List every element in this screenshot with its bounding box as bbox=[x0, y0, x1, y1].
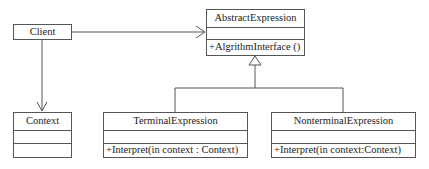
hollow-triangle-icon bbox=[249, 56, 261, 65]
class-terminal-expression[interactable]: TerminalExpression +Interpret(in context… bbox=[103, 112, 248, 158]
attributes-compartment bbox=[272, 130, 415, 143]
attributes-compartment bbox=[14, 130, 71, 143]
class-name: NonterminalExpression bbox=[272, 113, 415, 130]
class-client[interactable]: Client bbox=[13, 24, 72, 40]
attributes-compartment bbox=[104, 130, 247, 143]
class-name: TerminalExpression bbox=[104, 113, 247, 130]
class-abstract-expression[interactable]: AbstractExpression +AlgrithmInterface () bbox=[206, 9, 305, 56]
generalization-connector bbox=[175, 56, 343, 112]
operations-compartment bbox=[14, 143, 71, 157]
operations-compartment: +Interpret(in context : Context) bbox=[104, 143, 247, 157]
client-to-abstractexpression-association bbox=[71, 26, 205, 38]
class-nonterminal-expression[interactable]: NonterminalExpression +Interpret(in cont… bbox=[271, 112, 416, 158]
client-to-context-association bbox=[37, 39, 47, 111]
class-name: AbstractExpression bbox=[207, 10, 304, 27]
class-name: Client bbox=[14, 25, 71, 39]
operations-compartment: +AlgrithmInterface () bbox=[207, 39, 304, 55]
attributes-compartment bbox=[207, 27, 304, 39]
class-name: Context bbox=[14, 113, 71, 130]
operations-compartment: +Interpret(in context:Context) bbox=[272, 143, 415, 157]
class-context[interactable]: Context bbox=[13, 112, 72, 158]
